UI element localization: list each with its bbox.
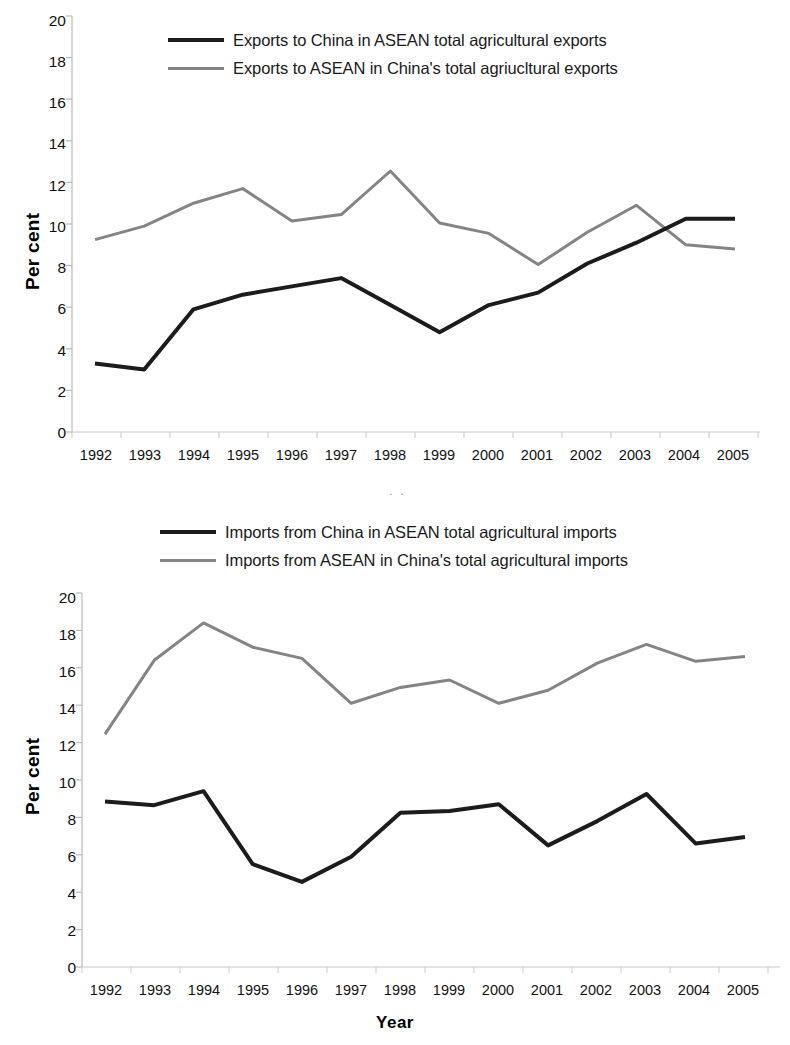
imports-line-china-in-asean (105, 791, 745, 882)
scan-artifact-dots: . . (389, 483, 406, 498)
imports-x-tick-marks (82, 967, 768, 973)
imports-y-tick-marks (76, 593, 82, 967)
imports-plot-area (0, 505, 790, 1045)
exports-chart-panel: Exports to China in ASEAN total agricult… (0, 0, 790, 505)
imports-x-axis-title: Year (0, 1013, 790, 1033)
imports-chart-panel: Imports from China in ASEAN total agricu… (0, 505, 790, 1045)
exports-line-china-in-asean (95, 219, 735, 370)
exports-xtick-2005: 2005 (703, 448, 763, 463)
exports-plot-area (0, 0, 790, 505)
exports-x-tick-marks (72, 432, 758, 438)
imports-xtick-2005: 2005 (713, 983, 773, 998)
exports-line-asean-in-china (95, 171, 735, 265)
imports-line-asean-in-china (105, 623, 745, 734)
exports-y-tick-marks (66, 16, 72, 432)
